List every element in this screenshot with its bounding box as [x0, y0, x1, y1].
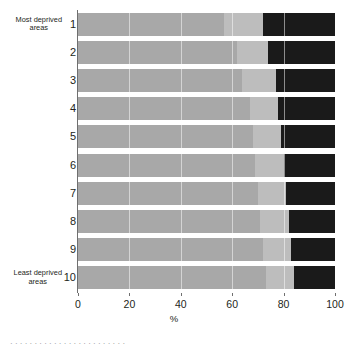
bar-row-category-number: 3 [63, 75, 78, 86]
bar-segment-3 [291, 238, 335, 261]
x-tick-label: 60 [226, 298, 238, 311]
bar-track [78, 97, 335, 120]
x-tick-label: 100 [326, 298, 344, 311]
bar-segment-3 [263, 13, 335, 36]
bar-row-side-label: 9 [0, 236, 78, 264]
bar-row-category-number: 10 [63, 272, 78, 283]
bar-segment-3 [286, 182, 335, 205]
bar-row-side-label: 7 [0, 179, 78, 207]
bar-row-category-number: 1 [63, 19, 78, 30]
bar-segment-1 [78, 154, 255, 177]
bar-segment-3 [294, 266, 335, 289]
bar-segment-1 [78, 97, 250, 120]
x-axis-ticks [78, 293, 335, 297]
bar-segment-2 [260, 210, 288, 233]
bar-segment-2 [253, 125, 281, 148]
bar-segment-2 [250, 97, 278, 120]
most-deprived-label: Most deprived areas [16, 16, 63, 33]
bar-row-side-label: 8 [0, 207, 78, 235]
bar-segment-3 [281, 125, 335, 148]
bar-row: Least deprived areas10 [0, 264, 348, 292]
bar-segment-2 [224, 13, 263, 36]
bar-track [78, 238, 335, 261]
bar-row-category-number: 8 [63, 216, 78, 227]
bar-row-category-number: 2 [63, 47, 78, 58]
bar-segment-2 [237, 41, 268, 64]
bar-segment-3 [284, 154, 335, 177]
bar-rows: Most deprived areas123456789Least depriv… [0, 10, 348, 292]
x-tick-label: 40 [175, 298, 187, 311]
bar-row-side-label: 2 [0, 38, 78, 66]
bar-row: 7 [0, 179, 348, 207]
bar-row-side-label: 6 [0, 151, 78, 179]
bar-row-side-label: 3 [0, 66, 78, 94]
bar-row: 2 [0, 38, 348, 66]
bar-row-side-label: Least deprived areas10 [0, 264, 78, 292]
bar-segment-1 [78, 69, 242, 92]
x-tick-label: 80 [278, 298, 290, 311]
bar-segment-1 [78, 125, 253, 148]
bar-row: 5 [0, 123, 348, 151]
bar-track [78, 69, 335, 92]
bar-segment-3 [289, 210, 335, 233]
bar-segment-3 [278, 97, 335, 120]
bar-segment-2 [266, 266, 294, 289]
bar-row: 8 [0, 207, 348, 235]
bar-row-side-label: 5 [0, 123, 78, 151]
x-tick-label: 0 [75, 298, 81, 311]
bar-segment-2 [255, 154, 283, 177]
x-axis-tick-labels: 020406080100 [78, 298, 335, 312]
bar-row: 4 [0, 95, 348, 123]
bar-row-category-number: 6 [63, 160, 78, 171]
bar-segment-1 [78, 41, 237, 64]
y-axis-line [77, 10, 78, 293]
bar-track [78, 182, 335, 205]
bar-segment-3 [268, 41, 335, 64]
bar-segment-2 [263, 238, 291, 261]
bar-segment-1 [78, 182, 258, 205]
x-axis-label: % [0, 313, 348, 324]
bar-row-category-number: 7 [63, 188, 78, 199]
bar-row-category-number: 4 [63, 103, 78, 114]
bar-track [78, 125, 335, 148]
stacked-bar-chart: Most deprived areas123456789Least depriv… [0, 0, 348, 347]
bar-segment-2 [242, 69, 275, 92]
bar-segment-1 [78, 210, 260, 233]
caption-fragment: · · · · · · · · · · · · · · · · · · · · … [10, 339, 340, 347]
bar-row-side-label: Most deprived areas1 [0, 10, 78, 38]
bar-segment-3 [276, 69, 335, 92]
bar-segment-1 [78, 266, 266, 289]
bar-row-category-number: 5 [63, 131, 78, 142]
bar-row-category-number: 9 [63, 244, 78, 255]
bar-track [78, 266, 335, 289]
bar-row: 3 [0, 66, 348, 94]
bar-row: 6 [0, 151, 348, 179]
bar-row-side-label: 4 [0, 95, 78, 123]
least-deprived-label: Least deprived areas [14, 269, 63, 286]
bar-track [78, 210, 335, 233]
bar-track [78, 13, 335, 36]
bar-row: 9 [0, 236, 348, 264]
bar-segment-1 [78, 13, 224, 36]
x-tick-label: 20 [124, 298, 136, 311]
bar-track [78, 41, 335, 64]
bar-segment-1 [78, 238, 263, 261]
bar-row: Most deprived areas1 [0, 10, 348, 38]
bar-track [78, 154, 335, 177]
bar-segment-2 [258, 182, 286, 205]
